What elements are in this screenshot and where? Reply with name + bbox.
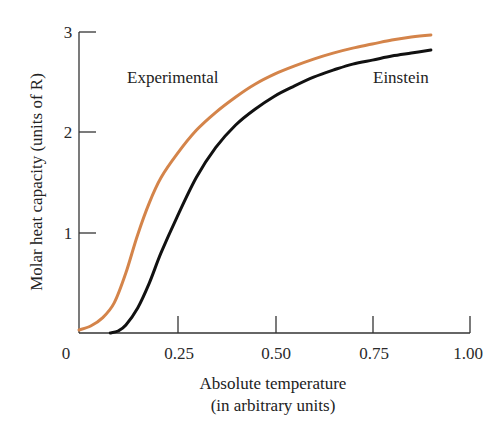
x-tick-075: 0.75 [359,344,389,363]
x-tick-0: 0 [62,344,71,363]
experimental-label: Experimental [127,68,219,87]
x-axis-subtitle: (in arbitrary units) [211,396,336,415]
y-axis-title: Molar heat capacity (units of R) [27,73,46,291]
x-axis [79,316,470,333]
x-tick-025: 0.25 [164,344,194,363]
x-tick-050: 0.50 [261,344,291,363]
y-axis [79,32,96,333]
einstein-label: Einstein [373,68,429,87]
einstein-curve [110,50,431,333]
y-tick-2: 2 [64,123,73,142]
x-axis-title: Absolute temperature [200,374,347,393]
heat-capacity-chart: 3 2 1 0 0.25 0.50 0.75 1.00 Absolute tem… [0,0,503,435]
x-tick-100: 1.00 [453,344,483,363]
y-tick-1: 1 [64,224,73,243]
y-tick-3: 3 [64,23,73,42]
